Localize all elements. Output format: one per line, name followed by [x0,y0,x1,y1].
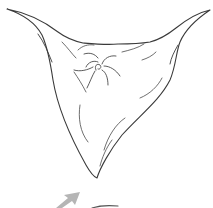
direction-arrow [56,192,80,208]
napkin-fold-diagram [0,0,213,208]
bottom-partial-shape [92,206,118,208]
cloth-outline [7,9,210,178]
